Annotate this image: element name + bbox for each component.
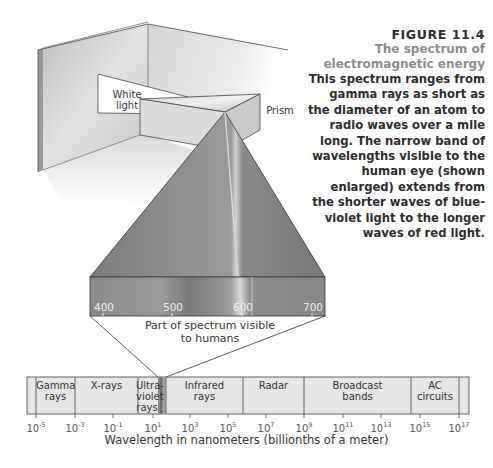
band-label-line: circuits (411, 391, 459, 402)
body-line: human eye (shown (295, 164, 485, 179)
white-light-line2: light (107, 100, 147, 111)
prism-label: Prism (262, 105, 298, 116)
visible-caption-line1: Part of spectrum visible (120, 319, 300, 332)
band-label-line: Broadcast (304, 380, 411, 391)
body-line: radio waves over a mile (295, 118, 485, 133)
band-broadcast-bands: Broadcast bands (304, 380, 411, 402)
body-line: waves of red light. (295, 226, 485, 241)
band-ac-circuits: AC circuits (411, 380, 459, 402)
figure-title-line1: The spectrum of (295, 42, 485, 57)
white-light-line1: White (107, 89, 147, 100)
visible-tick-500: 500 (163, 301, 183, 313)
band-label-line: AC (411, 380, 459, 391)
band-label-line: Gamma (36, 380, 75, 391)
band-label-line: bands (304, 391, 411, 402)
band-label-line: Radar (243, 380, 304, 391)
band-label-line: X-rays (75, 380, 138, 391)
band-label-line: Infrared (166, 380, 243, 391)
visible-spectrum-caption: Part of spectrum visible to humans (120, 319, 300, 345)
band-label-line: rays (166, 391, 243, 402)
body-line: gamma rays as short as (295, 87, 485, 102)
visible-tick-400: 400 (94, 301, 114, 313)
figure-title-line2: electromagnetic energy (295, 57, 485, 72)
figure-number: FIGURE 11.4 (295, 27, 485, 42)
body-line: This spectrum ranges from (295, 72, 485, 87)
band-x-rays: X-rays (75, 380, 138, 391)
body-line: long. The narrow band of (295, 134, 485, 149)
band-label-line: Ultra- (136, 380, 158, 391)
band-label-line: rays (36, 391, 75, 402)
white-light-label: White light (107, 89, 147, 111)
visible-caption-line2: to humans (120, 332, 300, 345)
band-label-line: rays (136, 402, 158, 413)
body-line: enlarged) extends from (295, 180, 485, 195)
visible-tick-600: 600 (233, 301, 253, 313)
band-gamma-rays: Gamma rays (36, 380, 75, 402)
body-line: the diameter of an atom to (295, 103, 485, 118)
band-infrared-rays: Infrared rays (166, 380, 243, 402)
body-line: violet light to the longer (295, 211, 485, 226)
visible-tick-700: 700 (303, 301, 323, 313)
band-ultraviolet-rays: Ultra- violet rays (138, 380, 158, 413)
body-line: the shorter waves of blue- (295, 195, 485, 210)
figure-caption: FIGURE 11.4 The spectrum of electromagne… (295, 27, 485, 241)
body-line: wavelengths visible to the (295, 149, 485, 164)
figure-body: This spectrum ranges from gamma rays as … (295, 72, 485, 241)
axis-title: Wavelength in nanometers (billionths of … (0, 433, 493, 447)
band-radar: Radar (243, 380, 304, 391)
band-label-line: violet (136, 391, 158, 402)
